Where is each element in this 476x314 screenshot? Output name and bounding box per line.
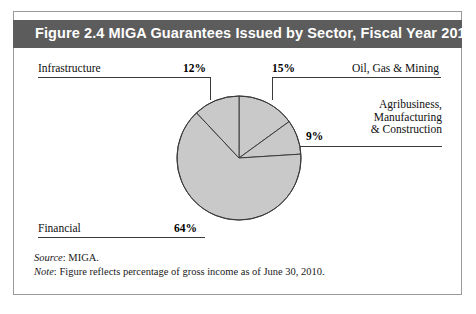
footnote-note: Note: Figure reflects percentage of gros… [34,265,325,279]
leader-line-financial-horizontal [38,237,205,238]
footnote-source: Source: MIGA. [34,251,325,265]
leader-line-oil-gas-mining-horizontal [272,77,441,78]
leader-line-infrastructure-horizontal [38,77,211,78]
footnote-source-text: : MIGA. [63,252,99,263]
callout-label-oil-gas-mining: Oil, Gas & Mining [352,62,439,74]
callout-label-agribusiness-line3: & Construction [371,123,442,135]
figure-title-bar: Figure 2.4 MIGA Guarantees Issued by Sec… [13,20,462,48]
callout-label-infrastructure: Infrastructure [38,62,101,74]
figure-container: Figure 2.4 MIGA Guarantees Issued by Sec… [0,0,476,314]
footnote-note-text: : Figure reflects percentage of gross in… [54,266,325,277]
callout-label-agribusiness-line2: Manufacturing [374,111,442,123]
leader-line-agribusiness-horizontal [300,146,442,147]
callout-label-financial: Financial [38,222,81,234]
callout-percent-oil-gas-mining: 15% [272,62,295,74]
figure-footnotes: Source: MIGA. Note: Figure reflects perc… [34,251,325,279]
pie-chart-svg [176,95,302,221]
callout-percent-financial: 64% [174,222,197,234]
footnote-source-lead: Source [34,252,63,263]
callout-label-agribusiness-line1: Agribusiness, [379,98,442,110]
callout-percent-agribusiness: 9% [306,130,323,142]
callout-percent-infrastructure: 12% [183,62,206,74]
callout-label-agribusiness: Agribusiness, Manufacturing & Constructi… [356,98,442,136]
pie-chart [176,95,302,221]
footnote-note-lead: Note [34,266,54,277]
figure-title: Figure 2.4 MIGA Guarantees Issued by Sec… [35,25,474,41]
